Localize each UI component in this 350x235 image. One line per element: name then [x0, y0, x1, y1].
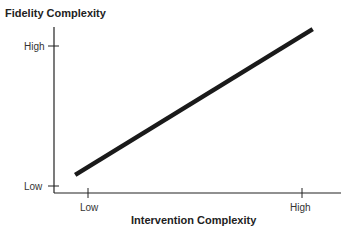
- chart: Fidelity Complexity High Low Low High In…: [0, 0, 350, 235]
- trend-line: [75, 29, 313, 175]
- x-axis-label: Intervention Complexity: [131, 214, 257, 226]
- x-tick-label-low: Low: [80, 202, 99, 213]
- y-tick-label-high: High: [24, 41, 45, 52]
- y-axis-label: Fidelity Complexity: [5, 7, 107, 19]
- y-tick-label-low: Low: [24, 181, 43, 192]
- x-tick-label-high: High: [290, 202, 311, 213]
